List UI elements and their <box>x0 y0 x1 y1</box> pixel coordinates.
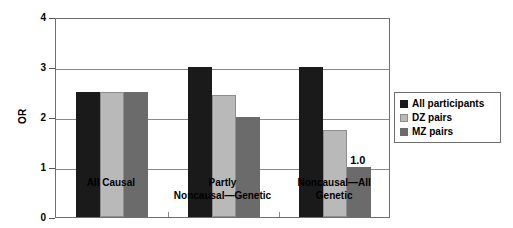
x-axis-category-label: All Causal <box>55 176 167 189</box>
bar <box>100 92 124 217</box>
x-axis-category-label: Partly Noncausal—Genetic <box>167 176 279 202</box>
legend-item: MZ pairs <box>400 125 496 138</box>
y-axis-tick-label: 0 <box>30 213 46 223</box>
bar <box>323 130 347 218</box>
y-axis-tick-label: 1 <box>30 163 46 173</box>
bar-chart-figure: OR 01234 1.0 All CausalPartly Noncausal—… <box>0 0 513 228</box>
legend-swatch-icon <box>400 128 408 136</box>
category-separator-tick <box>279 212 280 217</box>
gridline <box>56 69 389 70</box>
legend-item: All participants <box>400 97 496 110</box>
y-axis-tick-label: 3 <box>30 63 46 73</box>
legend-item-label: MZ pairs <box>412 127 453 137</box>
bar-value-annotation: 1.0 <box>350 155 365 166</box>
bar <box>124 92 148 217</box>
chart-legend: All participantsDZ pairsMZ pairs <box>394 92 501 143</box>
y-axis-tick-label: 4 <box>30 13 46 23</box>
legend-item: DZ pairs <box>400 111 496 124</box>
legend-item-label: DZ pairs <box>412 113 452 123</box>
y-axis-tick-mark <box>49 218 55 219</box>
legend-item-label: All participants <box>412 99 484 109</box>
legend-swatch-icon <box>400 114 408 122</box>
bar <box>76 92 100 217</box>
x-axis-category-label: Noncausal—All Genetic <box>278 176 390 202</box>
legend-swatch-icon <box>400 100 408 108</box>
bar <box>236 117 260 217</box>
category-separator-tick <box>168 212 169 217</box>
y-axis-tick-label: 2 <box>30 113 46 123</box>
